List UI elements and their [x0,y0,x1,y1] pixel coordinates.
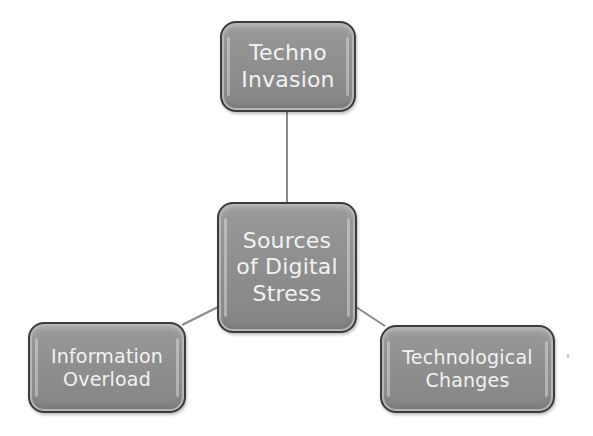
scan-artifact [567,354,569,358]
node-sources-of-digital-stress: Sources of Digital Stress [217,202,357,333]
node-label: Information Overload [51,345,163,391]
node-technological-changes: Technological Changes [380,325,555,413]
node-label: Techno Invasion [241,40,335,93]
node-information-overload: Information Overload [28,322,186,413]
node-label: Technological Changes [402,346,532,392]
node-techno-invasion: Techno Invasion [220,21,356,112]
node-label: Sources of Digital Stress [236,228,338,307]
connector-center-right [356,307,385,326]
connector-center-left [182,307,218,325]
